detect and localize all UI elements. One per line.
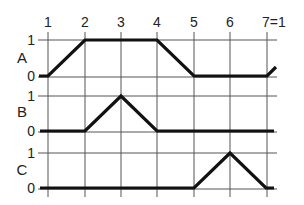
row-b-high-label: 1 [27,88,35,104]
vertical-gridlines [48,32,267,197]
column-labels: 1 2 3 4 5 6 7=1 [44,14,286,30]
row-b-name: B [17,103,27,120]
column-label-6: 6 [226,14,234,30]
column-label-7: 7=1 [262,14,286,30]
row-b-low-label: 0 [27,123,35,139]
column-label-5: 5 [190,14,198,30]
row-c-name: C [17,161,28,178]
column-label-3: 3 [117,14,125,30]
row-c-high-label: 1 [27,145,35,161]
timing-diagram: 1 2 3 4 5 6 7=1 1 A 0 1 B 0 [0,0,304,205]
row-a-name: A [17,49,27,66]
row-c-low-label: 0 [27,180,35,196]
column-label-4: 4 [153,14,161,30]
column-label-1: 1 [44,14,52,30]
column-label-2: 2 [81,14,89,30]
row-a-high-label: 1 [27,32,35,48]
row-a-low-label: 0 [27,68,35,84]
